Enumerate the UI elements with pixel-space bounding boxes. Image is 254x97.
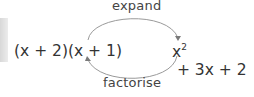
- expanded-expression: x2 + 3x + 2: [172, 42, 254, 79]
- expand-arrow: [88, 19, 178, 40]
- expand-label: expand: [112, 0, 161, 13]
- factorise-label: factorise: [103, 75, 161, 90]
- expanded-rest: + 3x + 2: [172, 61, 247, 79]
- expanded-exponent: 2: [181, 42, 187, 52]
- factorised-expression: (x + 2)(x + 1): [14, 42, 122, 60]
- expanded-base: x: [172, 43, 181, 61]
- expand-arrowhead: [175, 36, 181, 41]
